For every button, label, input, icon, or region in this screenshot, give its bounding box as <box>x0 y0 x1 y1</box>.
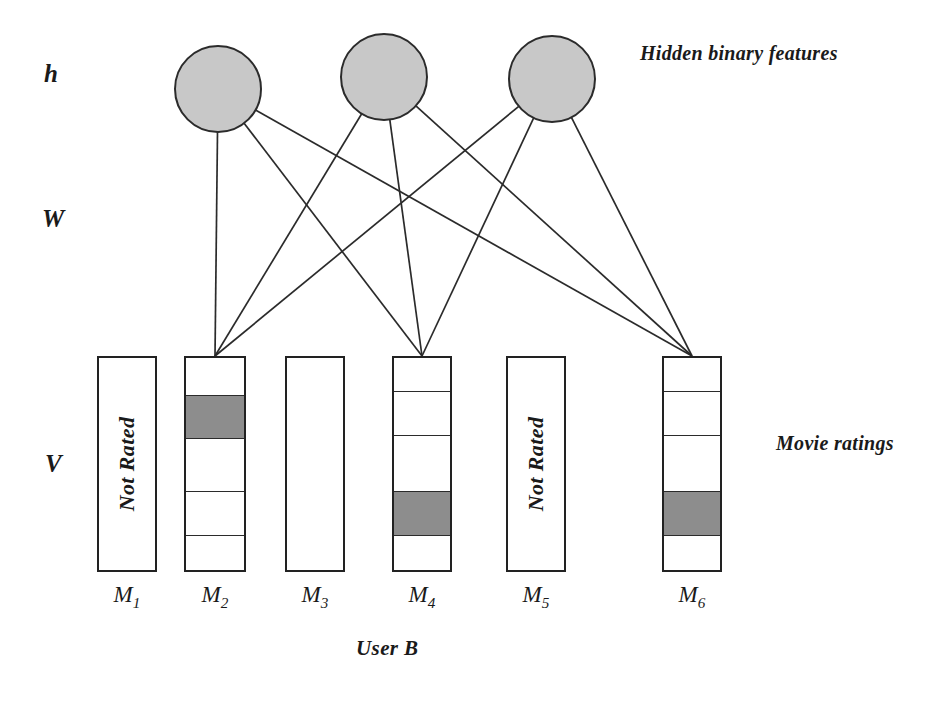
rating-cell-M6-3 <box>664 436 720 491</box>
connection-h2-M4 <box>390 120 422 356</box>
diagram-canvas: h W V Hidden binary features Movie ratin… <box>0 0 952 702</box>
movie-label-M5: M5 <box>506 582 566 612</box>
connection-h3-M4 <box>422 118 534 356</box>
connection-h3-M2 <box>215 106 519 356</box>
connection-h2-M6 <box>416 106 692 356</box>
rating-cell-M4-4 <box>394 492 450 537</box>
rating-cell-M6-1 <box>664 358 720 392</box>
movie-rating-column-M1: Not Rated <box>97 356 157 572</box>
rating-cell-M6-5 <box>664 536 720 570</box>
movie-label-M6: M6 <box>662 582 722 612</box>
movie-label-M4: M4 <box>392 582 452 612</box>
movie-rating-column-M6 <box>662 356 722 572</box>
connection-h1-M2 <box>215 132 218 356</box>
rating-cell-M2-3 <box>186 439 244 492</box>
rating-cell-M4-2 <box>394 392 450 437</box>
rating-cell-M4-3 <box>394 436 450 491</box>
movie-rating-column-M4 <box>392 356 452 572</box>
rating-cell-M2-5 <box>186 536 244 570</box>
movie-label-M3: M3 <box>285 582 345 612</box>
movie-label-M2: M2 <box>184 582 246 612</box>
hidden-unit-h3 <box>508 35 596 123</box>
rating-cell-M6-4 <box>664 492 720 537</box>
movie-rating-column-M2 <box>184 356 246 572</box>
rating-cell-M6-2 <box>664 392 720 437</box>
connection-h3-M6 <box>571 117 692 356</box>
connection-h2-M2 <box>215 114 362 356</box>
rating-cell-M2-4 <box>186 492 244 537</box>
hidden-unit-h2 <box>340 33 428 121</box>
rating-cell-M2-1 <box>186 358 244 396</box>
not-rated-label-M1: Not Rated <box>114 417 140 512</box>
rating-cell-M4-1 <box>394 358 450 392</box>
rating-cell-M4-5 <box>394 536 450 570</box>
connection-h1-M6 <box>256 110 693 356</box>
not-rated-label-M5: Not Rated <box>523 417 549 512</box>
caption-hidden-binary-features: Hidden binary features <box>640 42 838 65</box>
rating-cell-M2-2 <box>186 396 244 438</box>
movie-label-M1: M1 <box>97 582 157 612</box>
user-label: User B <box>356 636 419 661</box>
caption-movie-ratings: Movie ratings <box>776 432 894 455</box>
layer-label-hidden: h <box>44 60 58 88</box>
movie-rating-column-M5: Not Rated <box>506 356 566 572</box>
layer-label-visible: V <box>45 450 62 478</box>
hidden-unit-h1 <box>174 45 262 133</box>
layer-label-weights: W <box>42 205 65 233</box>
movie-rating-column-M3 <box>285 356 345 572</box>
connection-h1-M4 <box>244 123 422 356</box>
